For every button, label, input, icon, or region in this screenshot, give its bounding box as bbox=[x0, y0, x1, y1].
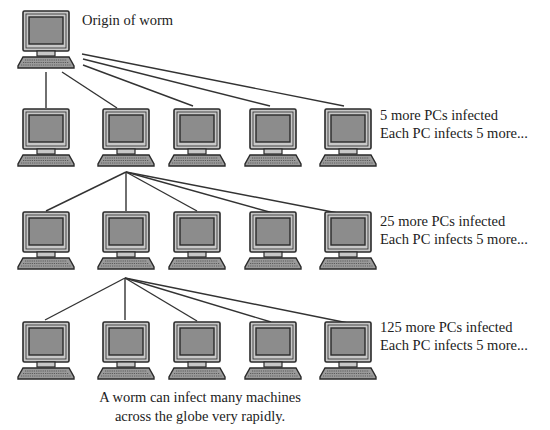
row-3-computer-5 bbox=[319, 321, 377, 381]
row-3-computer-2 bbox=[97, 321, 155, 381]
row-2-computer-3 bbox=[168, 211, 226, 271]
computer-icon bbox=[17, 108, 75, 168]
connection-line bbox=[125, 278, 271, 322]
connection-line bbox=[126, 172, 348, 215]
computer-icon bbox=[244, 108, 302, 168]
computer-icon bbox=[97, 108, 155, 168]
connection-line bbox=[125, 278, 348, 323]
row-3-label: 125 more PCs infected Each PC infects 5 … bbox=[380, 318, 528, 354]
connection-line bbox=[125, 278, 197, 321]
row-2-computer-2 bbox=[97, 211, 155, 271]
connection-line bbox=[83, 65, 193, 106]
computer-icon bbox=[17, 211, 75, 271]
row-1-label: 5 more PCs infected Each PC infects 5 mo… bbox=[380, 106, 528, 142]
row-1-spread: Each PC infects 5 more... bbox=[380, 124, 528, 142]
computer-icon bbox=[168, 321, 226, 381]
computer-icon bbox=[168, 211, 226, 271]
row-1-computer-4 bbox=[244, 108, 302, 168]
caption-line-1: A worm can infect many machines bbox=[40, 388, 360, 407]
computer-icon bbox=[97, 321, 155, 381]
origin-label-text: Origin of worm bbox=[82, 12, 173, 28]
row-3-spread: Each PC infects 5 more... bbox=[380, 336, 528, 354]
computer-icon bbox=[319, 211, 377, 271]
computer-icon bbox=[17, 10, 75, 70]
row-1-count: 5 more PCs infected bbox=[380, 106, 528, 124]
row-2-label: 25 more PCs infected Each PC infects 5 m… bbox=[380, 212, 528, 248]
computer-icon bbox=[17, 321, 75, 381]
row-1-computer-1 bbox=[17, 108, 75, 168]
caption: A worm can infect many machines across t… bbox=[40, 388, 360, 426]
computer-icon bbox=[97, 211, 155, 271]
computer-icon bbox=[244, 211, 302, 271]
row-2-count: 25 more PCs infected bbox=[380, 212, 528, 230]
row-3-count: 125 more PCs infected bbox=[380, 318, 528, 336]
row-3-computer-3 bbox=[168, 321, 226, 381]
connection-line bbox=[126, 172, 273, 213]
computer-icon bbox=[168, 108, 226, 168]
row-2-computer-1 bbox=[17, 211, 75, 271]
row-2-computer-5 bbox=[319, 211, 377, 271]
origin-label: Origin of worm bbox=[82, 11, 173, 29]
connection-line bbox=[62, 72, 117, 108]
computer-icon bbox=[319, 108, 377, 168]
connection-line bbox=[46, 172, 126, 211]
connection-line bbox=[45, 278, 125, 320]
computer-icon bbox=[319, 321, 377, 381]
connection-line bbox=[83, 59, 270, 106]
row-2-spread: Each PC infects 5 more... bbox=[380, 230, 528, 248]
row-2-computer-4 bbox=[244, 211, 302, 271]
row-1-computer-5 bbox=[319, 108, 377, 168]
computer-icon bbox=[244, 321, 302, 381]
row-3-computer-1 bbox=[17, 321, 75, 381]
row-1-computer-2 bbox=[97, 108, 155, 168]
row-1-computer-3 bbox=[168, 108, 226, 168]
caption-line-2: across the globe very rapidly. bbox=[40, 407, 360, 426]
row-3-computer-4 bbox=[244, 321, 302, 381]
origin-computer bbox=[17, 10, 75, 70]
connection-line bbox=[126, 172, 197, 211]
